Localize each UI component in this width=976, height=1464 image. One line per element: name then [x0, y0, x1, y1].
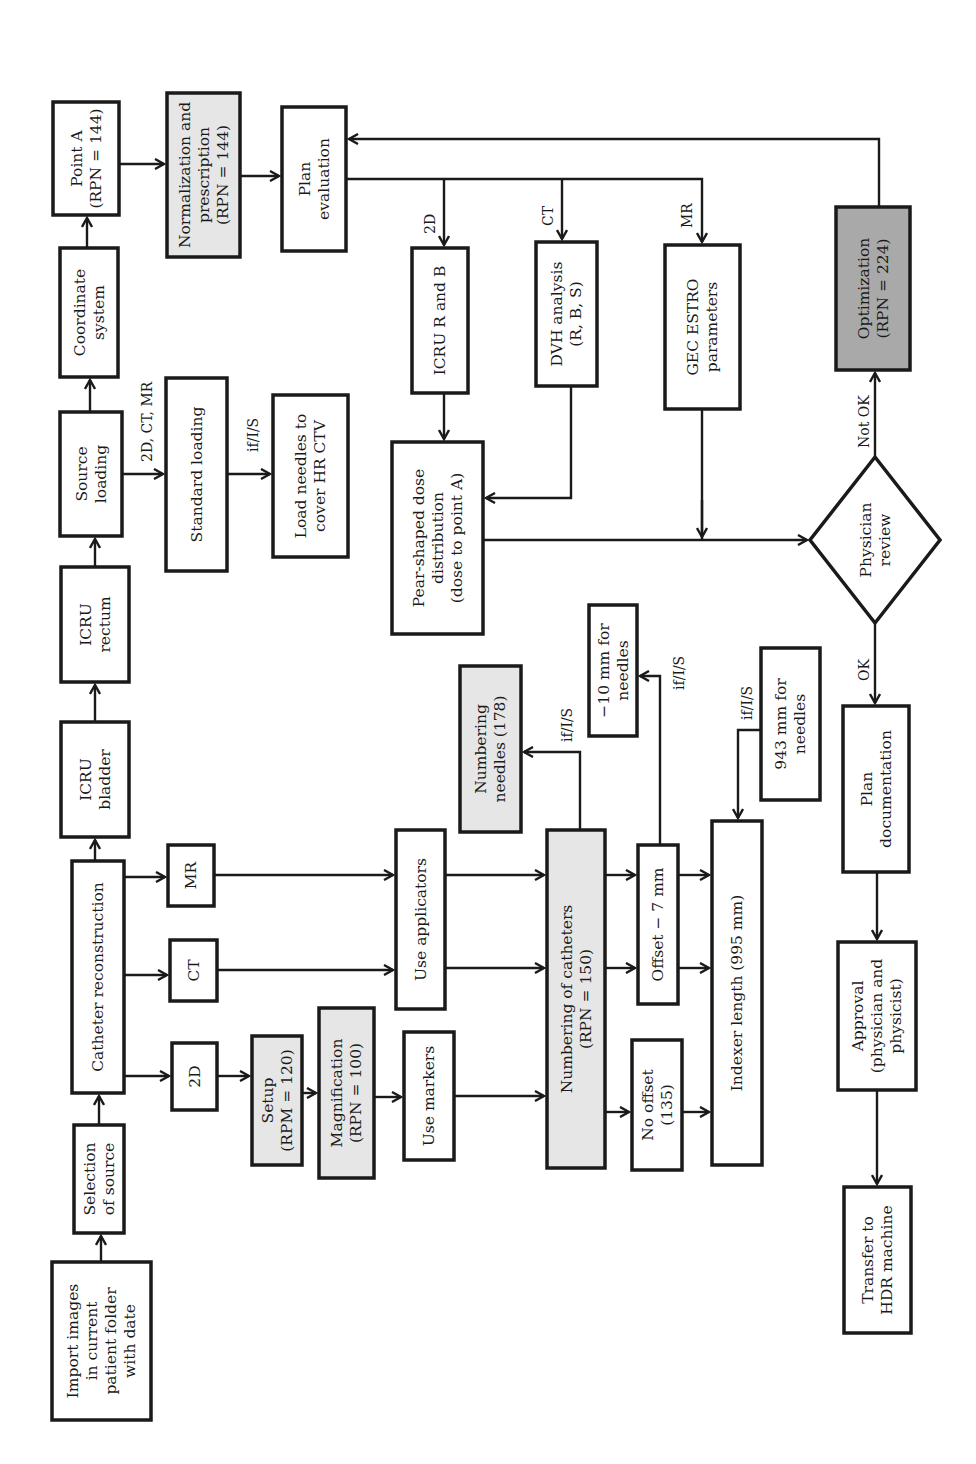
- edge-label-mr-eval: MR: [679, 203, 695, 228]
- node-offset-7mm: Offset − 7 mm: [638, 845, 678, 1004]
- node-use-markers: Use markers: [404, 1032, 454, 1160]
- edge-optim-planeval: [349, 139, 879, 207]
- node-label: Offset − 7 mm: [649, 867, 667, 981]
- edge-label-2d-ct-mr: 2D, CT, MR: [139, 381, 155, 462]
- node-icru-r-and-b: ICRU R and B: [412, 248, 468, 393]
- node-approval: Approval(physician andphysicist): [838, 942, 916, 1090]
- edge-label-ct-eval: CT: [540, 205, 556, 226]
- node-modality-2d: 2D: [172, 1043, 217, 1110]
- edge-offset7-minus10: [640, 676, 660, 845]
- edge-label-ok: OK: [856, 659, 872, 681]
- node-label: ICRU R and B: [431, 266, 449, 376]
- node-label: Transfer toHDR machine: [859, 1205, 896, 1314]
- edge-dvh-pear: [486, 386, 571, 498]
- node-modality-mr: MR: [168, 845, 214, 906]
- node-point-a: Point A(RPN = 144): [53, 102, 119, 215]
- node-setup: Setup(RPM = 120): [252, 1036, 302, 1165]
- edge-numcath-numneedles: [524, 752, 580, 830]
- node-label: Physicianreview: [857, 503, 894, 578]
- edge-label-if-is-loading: if/I/S: [245, 418, 261, 452]
- node-label: Catheter reconstruction: [89, 882, 107, 1072]
- node-selection-of-source: Selectionof source: [74, 1125, 124, 1233]
- node-import-images: Import imagesin currentpatient folderwit…: [52, 1262, 151, 1420]
- nodes: Import imagesin currentpatient folderwit…: [52, 93, 940, 1420]
- node-icru-bladder: ICRUbladder: [61, 722, 129, 837]
- node-standard-loading: Standard loading: [166, 378, 227, 571]
- node-magnification: Magnification(RPN = 100): [319, 1008, 374, 1178]
- node-icru-rectum: ICRUrectum: [61, 567, 129, 682]
- node-modality-ct: CT: [170, 940, 217, 1001]
- node-label: Optimization(RPN = 224): [855, 238, 892, 339]
- node-load-needles: Load needles tocover HR CTV: [273, 395, 348, 557]
- node-no-offset: No offset(135): [632, 1040, 682, 1170]
- node-source-loading: Sourceloading: [60, 412, 122, 536]
- edge-943-indexer: [738, 730, 761, 818]
- node-label: 2D: [186, 1065, 204, 1087]
- node-use-applicators: Use applicators: [396, 830, 445, 1009]
- node-label: CT: [185, 959, 203, 982]
- node-label: Sourceloading: [73, 445, 110, 503]
- node-pear-shaped: Pear-shaped dosedistribution(dose to poi…: [392, 442, 483, 634]
- node-label: Numberingneedles (178): [472, 696, 509, 803]
- node-optimization: Optimization(RPN = 224): [836, 207, 910, 370]
- node-coordinate-system: Coordinatesystem: [60, 248, 118, 377]
- node-label: GEC ESTROparameters: [684, 278, 721, 375]
- node-dvh-analysis: DVH analysis(R, B, S): [536, 242, 597, 386]
- edge-eval-gec: [346, 179, 702, 242]
- node-label: Magnification(RPN = 100): [328, 1039, 365, 1148]
- node-normalization: Normalization andprescription(RPN = 144): [167, 93, 240, 257]
- node-minus-10mm: −10 mm forneedles: [589, 605, 637, 736]
- node-label: Standard loading: [188, 407, 206, 543]
- node-label: ICRUrectum: [77, 596, 114, 652]
- node-label: Selectionof source: [81, 1142, 118, 1215]
- node-numbering-needles: Numberingneedles (178): [460, 666, 521, 832]
- node-label: MR: [182, 860, 200, 889]
- node-transfer-hdr: Transfer toHDR machine: [844, 1187, 911, 1333]
- edge-label-not-ok: Not OK: [856, 395, 872, 448]
- node-physician-review: Physicianreview: [810, 457, 940, 623]
- node-label: Indexer length (995 mm): [728, 895, 746, 1092]
- edge-label-if-is-943: if/I/S: [739, 686, 755, 720]
- node-943mm: 943 mm forneedles: [761, 648, 820, 800]
- node-label: Load needles tocover HR CTV: [292, 414, 329, 539]
- node-numbering-catheters: Numbering of catheters(RPN = 150): [547, 830, 605, 1168]
- node-plan-evaluation: Planevaluation: [282, 107, 346, 251]
- node-label: Use applicators: [412, 858, 430, 981]
- edge-label-if-is-minus10: if/I/S: [671, 656, 687, 690]
- node-gec-estro: GEC ESTROparameters: [665, 245, 740, 409]
- node-indexer-length: Indexer length (995 mm): [712, 821, 762, 1165]
- node-label: Use markers: [420, 1046, 438, 1146]
- node-plan-documentation: Plandocumentation: [843, 706, 909, 872]
- flowchart-diagram: Import imagesin currentpatient folderwit…: [0, 0, 976, 1464]
- edge-label-2d-eval: 2D: [422, 214, 438, 234]
- node-catheter-reconstruction: Catheter reconstruction: [72, 861, 124, 1093]
- edge-label-if-is-numneedles: if/I/S: [559, 708, 575, 742]
